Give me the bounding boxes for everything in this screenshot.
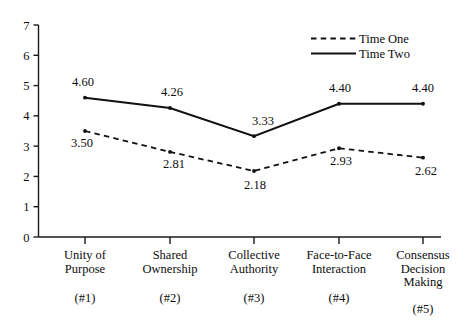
- category-label-line: Collective: [228, 248, 280, 262]
- data-point: [83, 129, 87, 133]
- y-axis-tick-label: 7: [23, 19, 29, 33]
- legend-label: Time One: [359, 32, 409, 46]
- data-value-label: 2.93: [330, 154, 352, 168]
- y-axis-tick-label: 2: [23, 170, 29, 184]
- category-label-line: Making: [404, 275, 444, 289]
- data-point: [421, 102, 425, 106]
- category-number-label: (#5): [413, 302, 434, 316]
- category-label-line: Ownership: [143, 262, 198, 276]
- category-number-label: (#3): [244, 291, 265, 305]
- series-layer: [83, 96, 425, 173]
- data-point: [168, 150, 172, 154]
- y-axis: 01234567: [23, 19, 38, 245]
- y-axis-tick-label: 5: [23, 79, 29, 93]
- data-value-label: 4.60: [72, 75, 94, 89]
- data-point: [252, 134, 256, 138]
- category-label-line: Decision: [401, 262, 446, 276]
- category-label-line: Consensus: [396, 248, 450, 262]
- y-axis-tick-label: 3: [23, 140, 29, 154]
- data-value-label: 2.62: [415, 164, 437, 178]
- data-value-label: 4.26: [161, 85, 183, 99]
- category-number-label: (#1): [75, 291, 96, 305]
- category-labels: Unity ofPurpose(#1)SharedOwnership(#2)Co…: [64, 248, 450, 316]
- chart-canvas: 01234567 4.604.263.334.404.403.502.812.1…: [0, 0, 467, 322]
- data-value-label: 3.50: [71, 136, 93, 150]
- category-label-line: Purpose: [65, 262, 106, 276]
- data-value-labels: 4.604.263.334.404.403.502.812.182.932.62: [71, 75, 437, 192]
- category-label-line: Interaction: [312, 262, 367, 276]
- data-value-label: 4.40: [412, 81, 434, 95]
- data-point: [252, 169, 256, 173]
- data-point: [83, 96, 87, 100]
- data-value-label: 3.33: [252, 114, 274, 128]
- data-point: [337, 102, 341, 106]
- category-number-label: (#4): [329, 291, 350, 305]
- data-point: [168, 106, 172, 110]
- line-chart: 01234567 4.604.263.334.404.403.502.812.1…: [0, 0, 467, 322]
- y-axis-tick-label: 1: [23, 200, 29, 214]
- chart-legend: Time OneTime Two: [311, 32, 410, 61]
- legend-label: Time Two: [359, 47, 410, 61]
- data-value-label: 4.40: [329, 81, 351, 95]
- y-axis-tick-label: 0: [23, 231, 29, 245]
- y-axis-tick-label: 4: [23, 109, 30, 123]
- category-number-label: (#2): [160, 291, 181, 305]
- y-axis-tick-label: 6: [23, 49, 29, 63]
- data-point: [421, 156, 425, 160]
- category-label-line: Face-to-Face: [306, 248, 372, 262]
- x-axis: [39, 237, 442, 244]
- category-label-line: Unity of: [64, 248, 107, 262]
- category-label-line: Authority: [230, 262, 279, 276]
- data-value-label: 2.18: [244, 178, 266, 192]
- data-point: [337, 146, 341, 150]
- data-value-label: 2.81: [163, 157, 185, 171]
- category-label-line: Shared: [153, 248, 188, 262]
